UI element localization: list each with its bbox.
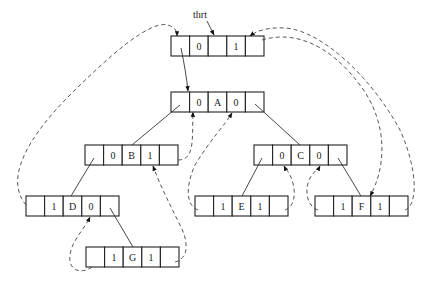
cell-ltag-value: 1 (220, 201, 225, 212)
cell-data-value: E (238, 201, 244, 212)
cell-lchild (26, 196, 45, 216)
thread-D-to-head (18, 25, 177, 205)
cell-rtag-value: 1 (149, 252, 154, 263)
cell-lchild (171, 92, 190, 112)
cell-rtag-value: 0 (234, 97, 239, 108)
thread-head-to-F (262, 37, 382, 196)
thread-F-to-head (250, 28, 414, 210)
nodes-layer: 010A00B10C01D01E11F11G1 (26, 36, 408, 267)
node-A: 0A0 (171, 92, 264, 112)
cell-data-value: B (128, 150, 135, 161)
node-D: 1D0 (26, 196, 119, 216)
cell-lchild (85, 145, 104, 165)
cell-lchild (195, 196, 214, 216)
cell-data-value: C (297, 150, 304, 161)
thread-E-to-A (188, 113, 232, 210)
edge-D-to-G (110, 208, 133, 247)
node-G: 1G1 (86, 247, 179, 267)
cell-rchild (245, 92, 264, 112)
cell-ltag-value: 1 (51, 201, 56, 212)
node-head: 01 (171, 36, 264, 56)
cell-lchild (254, 145, 273, 165)
cell-rchild (245, 36, 264, 56)
cell-data-value: A (214, 97, 222, 108)
cell-data-value: D (69, 201, 76, 212)
node-B: 0B1 (85, 145, 178, 165)
edge-A-to-C (255, 104, 300, 145)
cell-rtag-value: 1 (234, 41, 239, 52)
cell-rtag-value: 0 (317, 150, 322, 161)
thrt-pointer-arrow (207, 21, 214, 35)
cell-rtag-value: 1 (258, 201, 263, 212)
cell-lchild (171, 36, 190, 56)
thrt-label: thrt (193, 9, 207, 20)
node-F: 1F1 (315, 196, 408, 216)
cell-rchild (159, 145, 178, 165)
cell-data-value: F (359, 201, 365, 212)
cell-ltag-value: 0 (196, 41, 201, 52)
cell-rchild (389, 196, 408, 216)
cell-rchild (160, 247, 179, 267)
cell-rtag-value: 1 (378, 201, 383, 212)
cell-lchild (315, 196, 334, 216)
cell-rchild (328, 145, 347, 165)
node-E: 1E1 (195, 196, 288, 216)
cell-ltag-value: 0 (110, 150, 115, 161)
cell-data (208, 36, 227, 56)
cell-rtag-value: 1 (148, 150, 153, 161)
cell-rchild (269, 196, 288, 216)
cell-ltag-value: 1 (111, 252, 116, 263)
edge-B-to-D (71, 158, 94, 196)
threaded-binary-tree-diagram: thrt 010A00B10C01D01E11F11G1 (0, 0, 426, 281)
thread-B-to-A (178, 112, 193, 160)
cell-ltag-value: 0 (196, 97, 201, 108)
cell-ltag-value: 1 (340, 201, 345, 212)
threads (18, 25, 415, 271)
cell-lchild (86, 247, 105, 267)
cell-data-value: G (129, 252, 136, 263)
cell-rchild (100, 196, 119, 216)
cell-ltag-value: 0 (279, 150, 284, 161)
cell-rtag-value: 0 (89, 201, 94, 212)
edge-C-to-E (242, 158, 262, 196)
node-C: 0C0 (254, 145, 347, 165)
edge-A-to-B (132, 105, 180, 145)
edge-C-to-F (338, 158, 361, 196)
